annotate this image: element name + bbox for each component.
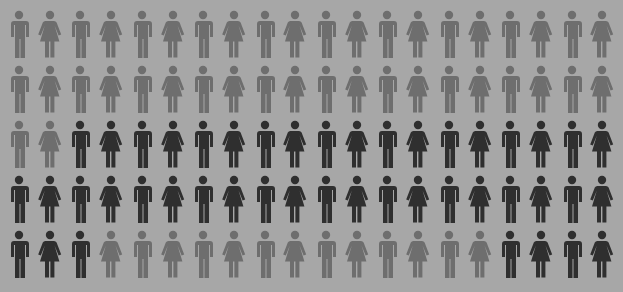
female-person-icon [344, 10, 370, 60]
male-person-icon [252, 10, 278, 60]
male-person-icon [559, 230, 585, 280]
female-person-icon [467, 65, 493, 115]
male-person-icon [67, 10, 93, 60]
female-person-icon [528, 10, 554, 60]
male-person-icon [6, 120, 32, 170]
male-person-icon [129, 175, 155, 225]
female-person-icon [528, 230, 554, 280]
female-person-icon [98, 175, 124, 225]
female-person-icon [37, 65, 63, 115]
male-person-icon [190, 65, 216, 115]
male-person-icon [252, 230, 278, 280]
female-person-icon [467, 230, 493, 280]
female-person-icon [405, 65, 431, 115]
male-person-icon [436, 10, 462, 60]
male-person-icon [6, 175, 32, 225]
female-person-icon [160, 65, 186, 115]
male-person-icon [436, 65, 462, 115]
male-person-icon [190, 10, 216, 60]
female-person-icon [528, 120, 554, 170]
female-person-icon [37, 175, 63, 225]
female-person-icon [37, 230, 63, 280]
female-person-icon [467, 175, 493, 225]
female-person-icon [589, 120, 615, 170]
female-person-icon [282, 120, 308, 170]
female-person-icon [282, 65, 308, 115]
male-person-icon [190, 230, 216, 280]
female-person-icon [37, 10, 63, 60]
male-person-icon [67, 175, 93, 225]
female-person-icon [160, 120, 186, 170]
female-person-icon [405, 10, 431, 60]
male-person-icon [313, 65, 339, 115]
male-person-icon [67, 230, 93, 280]
female-person-icon [344, 65, 370, 115]
female-person-icon [221, 65, 247, 115]
male-person-icon [374, 10, 400, 60]
male-person-icon [67, 65, 93, 115]
male-person-icon [252, 65, 278, 115]
female-person-icon [282, 230, 308, 280]
male-person-icon [497, 230, 523, 280]
male-person-icon [190, 175, 216, 225]
male-person-icon [313, 120, 339, 170]
male-person-icon [374, 65, 400, 115]
female-person-icon [528, 65, 554, 115]
female-person-icon [221, 230, 247, 280]
male-person-icon [252, 120, 278, 170]
female-person-icon [344, 120, 370, 170]
male-person-icon [313, 230, 339, 280]
male-person-icon [190, 120, 216, 170]
female-person-icon [98, 230, 124, 280]
male-person-icon [129, 120, 155, 170]
female-person-icon [589, 65, 615, 115]
female-person-icon [528, 175, 554, 225]
female-person-icon [221, 120, 247, 170]
male-person-icon [497, 175, 523, 225]
male-person-icon [497, 120, 523, 170]
female-person-icon [467, 120, 493, 170]
male-person-icon [313, 175, 339, 225]
male-person-icon [6, 10, 32, 60]
male-person-icon [313, 10, 339, 60]
female-person-icon [405, 230, 431, 280]
female-person-icon [98, 10, 124, 60]
female-person-icon [98, 120, 124, 170]
male-person-icon [436, 230, 462, 280]
male-person-icon [497, 65, 523, 115]
female-person-icon [344, 230, 370, 280]
male-person-icon [497, 10, 523, 60]
male-person-icon [67, 120, 93, 170]
female-person-icon [589, 10, 615, 60]
male-person-icon [559, 120, 585, 170]
female-person-icon [589, 175, 615, 225]
female-person-icon [160, 175, 186, 225]
female-person-icon [344, 175, 370, 225]
female-person-icon [160, 10, 186, 60]
female-person-icon [405, 175, 431, 225]
male-person-icon [6, 65, 32, 115]
male-person-icon [374, 120, 400, 170]
female-person-icon [221, 10, 247, 60]
female-person-icon [589, 230, 615, 280]
female-person-icon [98, 65, 124, 115]
female-person-icon [405, 120, 431, 170]
female-person-icon [282, 175, 308, 225]
male-person-icon [374, 175, 400, 225]
female-person-icon [160, 230, 186, 280]
male-person-icon [559, 65, 585, 115]
male-person-icon [374, 230, 400, 280]
pictogram-grid [0, 0, 623, 292]
male-person-icon [436, 175, 462, 225]
male-person-icon [559, 10, 585, 60]
male-person-icon [129, 65, 155, 115]
female-person-icon [467, 10, 493, 60]
female-person-icon [221, 175, 247, 225]
female-person-icon [37, 120, 63, 170]
male-person-icon [129, 230, 155, 280]
male-person-icon [559, 175, 585, 225]
male-person-icon [6, 230, 32, 280]
male-person-icon [252, 175, 278, 225]
male-person-icon [129, 10, 155, 60]
female-person-icon [282, 10, 308, 60]
